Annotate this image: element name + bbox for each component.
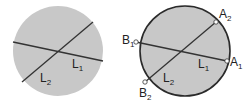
point-a1 xyxy=(225,59,229,63)
point-b2 xyxy=(143,80,147,84)
left-figure: L1 L2 xyxy=(13,6,103,96)
point-a2 xyxy=(214,20,218,24)
label-a2: A2 xyxy=(219,7,232,23)
label-b1: B1 xyxy=(122,33,135,49)
label-a1: A1 xyxy=(230,55,243,71)
right-figure: L1 L2 A1 A2 B1 B2 xyxy=(122,6,243,102)
label-b2: B2 xyxy=(139,86,152,102)
diagram-canvas: L1 L2 L1 L2 A1 A2 B1 B2 xyxy=(0,0,252,107)
